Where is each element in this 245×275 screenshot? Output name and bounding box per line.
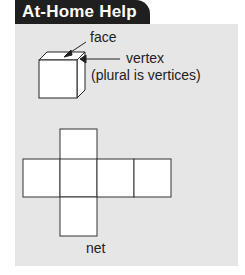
vertex-arrow-icon: [80, 55, 120, 63]
net-label: net: [86, 240, 105, 256]
cube-net-icon: [23, 129, 171, 236]
vertex-note: (plural is vertices): [91, 67, 201, 83]
face-label: face: [90, 29, 116, 45]
vertex-label: vertex: [126, 50, 164, 66]
diagrams: [0, 0, 245, 275]
cube-icon: [39, 52, 85, 98]
